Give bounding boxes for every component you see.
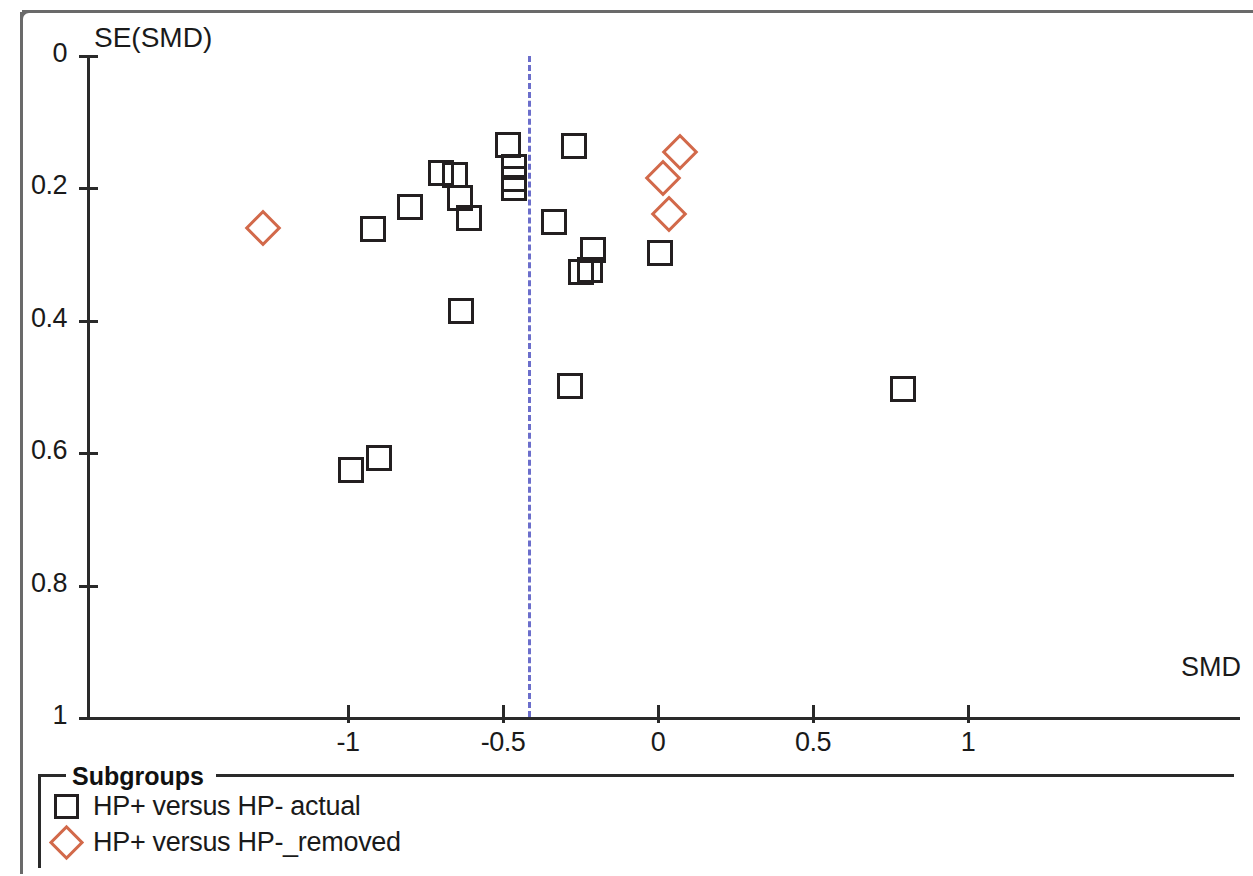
- y-tick-label: 0: [52, 38, 67, 69]
- x-tick-label: -0.5: [463, 727, 543, 758]
- legend-item-label: HP+ versus HP-_removed: [93, 827, 401, 858]
- data-point-diamond: [650, 196, 687, 233]
- data-point-square: [647, 240, 673, 266]
- data-point-square: [397, 194, 423, 220]
- x-tick-mark: [812, 705, 815, 723]
- data-point-square: [366, 445, 392, 471]
- data-point-square: [561, 133, 587, 159]
- y-tick-mark: [79, 585, 98, 588]
- data-point-square: [577, 257, 603, 283]
- y-tick-mark: [79, 717, 98, 720]
- reference-line: [528, 56, 531, 717]
- x-tick-label: 1: [928, 727, 1008, 758]
- data-point-square: [442, 162, 468, 188]
- x-tick-mark: [347, 705, 350, 723]
- data-point-square: [890, 376, 916, 402]
- data-point-square: [448, 298, 474, 324]
- y-tick-mark: [79, 55, 98, 58]
- y-tick-mark: [79, 187, 98, 190]
- y-tick-label: 0.2: [31, 170, 67, 201]
- y-axis-line: [87, 56, 90, 720]
- data-point-square: [360, 216, 386, 242]
- y-tick-label: 0.6: [31, 435, 67, 466]
- data-point-square: [456, 205, 482, 231]
- data-point-diamond: [244, 210, 281, 247]
- funnel-plot-figure: SE(SMD) SMD 00.20.40.60.81 -1-0.500.51 S…: [0, 0, 1253, 876]
- legend-item-removed: HP+ versus HP-_removed: [50, 824, 401, 860]
- y-tick-mark: [79, 452, 98, 455]
- y-tick-mark: [79, 320, 98, 323]
- data-point-square: [541, 209, 567, 235]
- x-axis-line: [87, 717, 1240, 720]
- x-tick-mark: [967, 705, 970, 723]
- x-tick-mark: [657, 705, 660, 723]
- legend-border-top-right: [216, 774, 1234, 777]
- y-axis-title: SE(SMD): [94, 22, 212, 54]
- x-axis-title: SMD: [1181, 652, 1241, 683]
- legend-border-top-left: [38, 774, 66, 777]
- x-tick-label: -1: [308, 727, 388, 758]
- plot-area: SE(SMD) SMD 00.20.40.60.81 -1-0.500.51: [0, 0, 1253, 760]
- y-tick-label: 0.4: [31, 303, 67, 334]
- diamond-icon: [50, 825, 84, 859]
- legend: Subgroups HP+ versus HP- actual HP+ vers…: [38, 762, 1234, 868]
- y-tick-label: 1: [52, 700, 67, 731]
- square-icon: [50, 789, 84, 823]
- data-point-square: [338, 457, 364, 483]
- data-point-square: [557, 373, 583, 399]
- legend-item-label: HP+ versus HP- actual: [93, 791, 361, 822]
- x-tick-mark: [502, 705, 505, 723]
- legend-border-left: [38, 774, 41, 868]
- y-tick-label: 0.8: [31, 568, 67, 599]
- x-tick-label: 0: [618, 727, 698, 758]
- legend-title: Subgroups: [72, 762, 204, 791]
- x-tick-label: 0.5: [773, 727, 853, 758]
- legend-item-actual: HP+ versus HP- actual: [50, 788, 361, 824]
- data-point-square: [501, 175, 527, 201]
